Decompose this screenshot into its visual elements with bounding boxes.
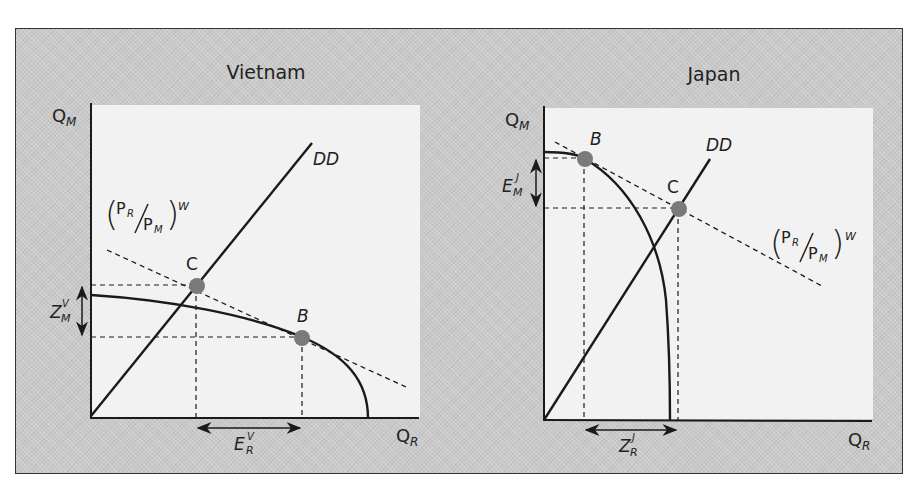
svg-text:P: P	[143, 215, 153, 234]
point-c-label-japan: C	[667, 177, 679, 197]
point-b-japan	[577, 151, 593, 167]
panel-vietnam: Vietnam Q M Q R DD C B	[49, 61, 420, 457]
svg-text:E: E	[502, 176, 513, 196]
trade-diagram: Vietnam Q M Q R DD C B	[0, 0, 916, 498]
svg-text:Q: Q	[52, 105, 66, 126]
svg-text:Q: Q	[396, 425, 410, 446]
point-b-label-japan: B	[590, 129, 602, 149]
panel-title-japan: Japan	[687, 63, 741, 85]
svg-text:V: V	[62, 298, 70, 309]
point-c-vietnam	[189, 278, 205, 294]
svg-text:J: J	[630, 432, 635, 443]
svg-text:M: M	[513, 186, 523, 199]
svg-text:P: P	[808, 244, 818, 263]
svg-text:R: R	[630, 446, 638, 459]
point-b-label-vietnam: B	[297, 306, 309, 326]
horizontal-arrow-label-vietnam: E R V	[234, 431, 255, 457]
point-b-vietnam	[294, 330, 310, 346]
x-axis-label-vietnam: Q R	[396, 425, 418, 449]
svg-text:E: E	[234, 434, 245, 454]
svg-text:R: R	[127, 208, 134, 219]
svg-text:M: M	[819, 253, 828, 264]
y-axis-label-japan: Q M	[505, 109, 530, 133]
svg-text:R: R	[246, 444, 254, 457]
vertical-arrow-label-japan: E M J	[502, 172, 523, 199]
svg-text:Q: Q	[848, 429, 862, 450]
svg-text:): )	[831, 223, 844, 263]
svg-text:R: R	[410, 435, 418, 449]
svg-text:Q: Q	[505, 109, 519, 130]
svg-text:W: W	[845, 230, 857, 243]
svg-text:P: P	[781, 228, 791, 247]
dd-label-japan: DD	[706, 135, 732, 155]
svg-text:V: V	[247, 431, 255, 442]
svg-text:M: M	[154, 224, 163, 235]
vertical-arrow-label-vietnam: Z M V	[49, 298, 71, 325]
svg-text:R: R	[792, 237, 799, 248]
dd-label-vietnam: DD	[313, 149, 339, 169]
point-c-label-vietnam: C	[186, 254, 198, 274]
panel-title-vietnam: Vietnam	[226, 61, 305, 83]
point-c-japan	[671, 201, 687, 217]
svg-text:M: M	[519, 119, 530, 133]
y-axis-label-vietnam: Q M	[52, 105, 77, 129]
x-axis-label-japan: Q R	[848, 429, 870, 453]
svg-text:M: M	[66, 115, 77, 129]
svg-text:J: J	[514, 172, 519, 183]
x-axis-japan	[543, 420, 872, 421]
horizontal-arrow-label-japan: Z R J	[618, 432, 638, 459]
svg-text:W: W	[178, 200, 190, 213]
svg-text:M: M	[61, 312, 71, 325]
svg-text:P: P	[116, 199, 126, 218]
panel-japan: Japan Q M Q R DD B C	[502, 63, 873, 459]
svg-text:R: R	[862, 439, 870, 453]
